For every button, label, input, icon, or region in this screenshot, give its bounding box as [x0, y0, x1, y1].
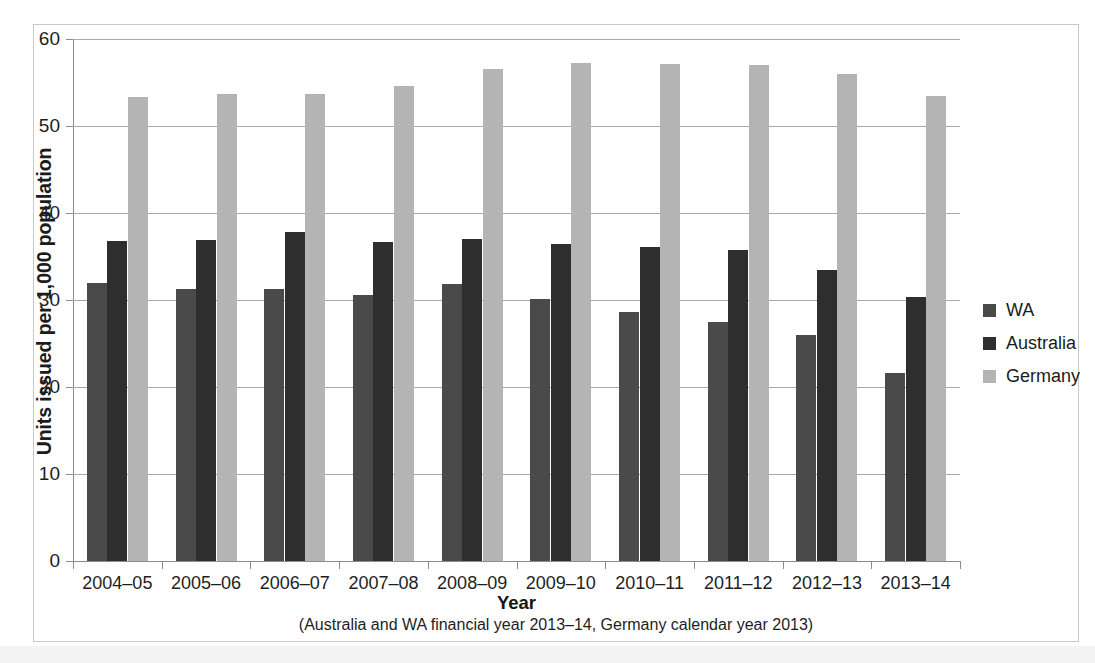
- x-axis-note: (Australia and WA financial year 2013–14…: [33, 616, 1079, 634]
- bar-au: [285, 232, 305, 561]
- bar-de: [305, 94, 325, 561]
- page-bottom-strip: [0, 646, 1095, 663]
- bar-wa: [885, 373, 905, 561]
- x-tick-mark: [871, 561, 872, 569]
- bar-wa: [442, 284, 462, 561]
- y-tick-mark: [66, 213, 73, 214]
- bar-de: [837, 74, 857, 561]
- bar-au: [728, 250, 748, 561]
- y-tick-mark: [66, 126, 73, 127]
- legend-swatch-icon: [983, 370, 996, 383]
- chart-legend: WAAustraliaGermany: [983, 294, 1093, 393]
- bar-wa: [264, 289, 284, 561]
- legend-item-au[interactable]: Australia: [983, 327, 1093, 360]
- y-tick-label: 60: [0, 29, 60, 48]
- bar-de: [571, 63, 591, 562]
- bar-wa: [530, 299, 550, 561]
- legend-item-label: Germany: [1006, 366, 1080, 387]
- bar-au: [107, 241, 127, 561]
- bar-au: [640, 247, 660, 561]
- bar-au: [373, 242, 393, 561]
- bar-de: [394, 86, 414, 561]
- bar-de: [483, 69, 503, 561]
- bar-wa: [87, 283, 107, 561]
- y-tick-label: 20: [0, 377, 60, 396]
- bar-au: [551, 244, 571, 561]
- bar-de: [660, 64, 680, 561]
- bar-group: [694, 39, 783, 561]
- plot-area: 0102030405060 2004–052005–062006–072007–…: [73, 39, 960, 562]
- legend-item-label: WA: [1006, 300, 1034, 321]
- bar-group: [73, 39, 162, 561]
- x-tick-mark: [694, 561, 695, 569]
- bar-au: [817, 270, 837, 561]
- y-tick-mark: [66, 474, 73, 475]
- legend-item-de[interactable]: Germany: [983, 360, 1093, 393]
- y-tick-label: 50: [0, 116, 60, 135]
- legend-swatch-icon: [983, 304, 996, 317]
- legend-item-label: Australia: [1006, 333, 1076, 354]
- legend-swatch-icon: [983, 337, 996, 350]
- y-tick-mark: [66, 39, 73, 40]
- bar-group: [517, 39, 606, 561]
- legend-item-wa[interactable]: WA: [983, 294, 1093, 327]
- bar-de: [128, 97, 148, 561]
- y-tick-label: 40: [0, 203, 60, 222]
- bar-de: [926, 96, 946, 561]
- bar-group: [783, 39, 872, 561]
- bar-group: [162, 39, 251, 561]
- bar-wa: [796, 335, 816, 561]
- y-tick-mark: [66, 561, 73, 562]
- x-tick-mark: [162, 561, 163, 569]
- bar-wa: [619, 312, 639, 561]
- bar-de: [749, 65, 769, 561]
- x-tick-mark: [428, 561, 429, 569]
- x-tick-mark: [605, 561, 606, 569]
- bar-au: [462, 239, 482, 561]
- x-tick-mark: [783, 561, 784, 569]
- chart-figure: Units issued per 1,000 population 010203…: [0, 0, 1095, 663]
- bar-wa: [708, 322, 728, 561]
- bar-group: [250, 39, 339, 561]
- x-tick-mark: [339, 561, 340, 569]
- bar-group: [428, 39, 517, 561]
- y-tick-mark: [66, 300, 73, 301]
- y-tick-label: 30: [0, 290, 60, 309]
- y-tick-label: 10: [0, 464, 60, 483]
- bar-group: [605, 39, 694, 561]
- x-tick-label: 2013–14: [856, 573, 976, 594]
- x-tick-mark: [250, 561, 251, 569]
- x-tick-mark: [517, 561, 518, 569]
- bar-wa: [353, 295, 373, 561]
- bar-wa: [176, 289, 196, 561]
- y-tick-label: 0: [0, 551, 60, 570]
- x-tick-mark: [73, 561, 74, 569]
- y-tick-mark: [66, 387, 73, 388]
- bar-group: [339, 39, 428, 561]
- x-tick-mark: [960, 561, 961, 569]
- bar-de: [217, 94, 237, 561]
- bar-au: [906, 297, 926, 561]
- bar-group: [871, 39, 960, 561]
- x-axis-title: Year: [73, 592, 960, 614]
- bar-au: [196, 240, 216, 561]
